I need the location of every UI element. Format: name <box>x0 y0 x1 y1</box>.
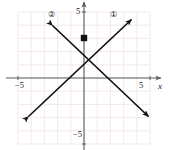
intersection-point-marker <box>81 35 87 41</box>
graph-line-2 <box>53 26 149 117</box>
coordinate-plane-figure: −5 5 5 −5 x ① ② <box>0 0 169 150</box>
graph-canvas <box>0 0 169 150</box>
y-axis-tick-label-5: 5 <box>76 7 80 16</box>
graph-line-1 <box>29 20 132 117</box>
line-2-label: ② <box>48 11 55 19</box>
line-1-label: ① <box>110 11 117 19</box>
x-axis-name-label: x <box>158 82 162 91</box>
x-axis-tick-label-negative-5: −5 <box>15 81 24 90</box>
x-axis-tick-label-5: 5 <box>139 81 143 90</box>
y-axis-tick-label-negative-5: −5 <box>73 130 82 139</box>
